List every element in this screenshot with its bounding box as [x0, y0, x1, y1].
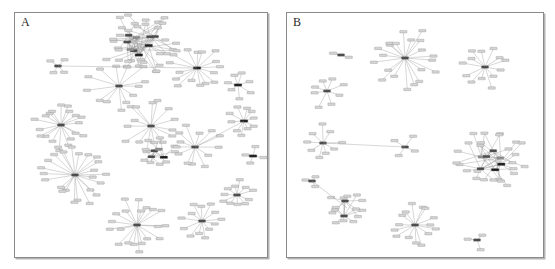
graph-node [103, 100, 110, 103]
graph-node [67, 138, 74, 141]
graph-node [478, 50, 485, 53]
graph-node [45, 159, 52, 162]
graph-node [118, 27, 125, 30]
graph-node [510, 167, 517, 170]
graph-edge [405, 58, 421, 70]
graph-node [220, 200, 227, 203]
graph-edge [62, 175, 75, 191]
graph-edge [63, 152, 75, 175]
graph-node [142, 23, 149, 26]
graph-node [122, 140, 129, 143]
graph-node [85, 154, 92, 157]
graph-node [247, 162, 254, 165]
graph-node [115, 243, 122, 246]
graph-node [399, 214, 406, 217]
graph-node [210, 71, 217, 74]
graph-node [309, 132, 316, 135]
graph-node [391, 139, 398, 142]
graph-node [83, 89, 90, 92]
graph-edge [323, 132, 330, 143]
graph-node [379, 54, 386, 57]
graph-node [497, 163, 505, 166]
graph-node [504, 184, 511, 187]
graph-edge [179, 133, 195, 147]
graph-node [169, 129, 176, 132]
graph-edge [405, 58, 407, 89]
graph-node [340, 219, 347, 222]
graph-edge [151, 126, 163, 142]
graph-node [205, 154, 212, 157]
graph-node [249, 155, 257, 158]
graph-node [227, 202, 234, 205]
graph-node [315, 106, 322, 109]
graph-edge [197, 52, 198, 68]
graph-edge [116, 214, 137, 225]
graph-node [202, 237, 209, 240]
graph-node [408, 202, 415, 205]
graph-node [341, 215, 348, 218]
graph-node [353, 194, 360, 197]
graph-node [477, 168, 484, 171]
graph-node [340, 83, 347, 86]
graph-node [208, 129, 215, 132]
graph-node [465, 142, 472, 145]
graph-node [47, 60, 54, 63]
graph-node [250, 117, 257, 120]
graph-node [490, 47, 497, 50]
graph-edge [61, 125, 71, 139]
graph-node [463, 169, 470, 172]
graph-node [497, 157, 504, 160]
panel-a-label: A [21, 15, 30, 30]
graph-edge [238, 85, 239, 99]
graph-edge [119, 67, 127, 86]
graph-node [375, 47, 382, 50]
graph-node [329, 212, 336, 215]
graph-layer [31, 14, 267, 253]
graph-edge [237, 107, 244, 121]
graph-node [66, 110, 73, 113]
graph-node [331, 148, 338, 151]
graph-edge [322, 124, 323, 143]
graph-node [169, 135, 176, 138]
graph-edge [405, 58, 414, 85]
graph-node [207, 203, 214, 206]
graph-node [116, 34, 123, 37]
graph-node [354, 215, 361, 218]
graph-node [125, 242, 132, 245]
graph-node [473, 177, 480, 180]
graph-edge [319, 91, 327, 107]
graph-node [224, 81, 231, 84]
graph-node [182, 124, 189, 127]
graph-edge [127, 42, 128, 61]
graph-node [224, 187, 231, 190]
graph-node [497, 69, 504, 72]
graph-node [391, 75, 398, 78]
graph-node [127, 48, 134, 51]
graph-node [478, 77, 485, 80]
graph-node [518, 142, 525, 145]
graph-node [154, 99, 161, 102]
graph-node [138, 242, 145, 245]
graph-node [163, 52, 170, 55]
panel-b: B [286, 12, 544, 258]
graph-node [145, 44, 153, 47]
graph-edge [495, 170, 507, 186]
graph-node [345, 56, 352, 59]
graph-node [416, 80, 423, 83]
graph-node [218, 218, 225, 221]
graph-node [419, 29, 426, 32]
graph-node [509, 161, 516, 164]
graph-node [113, 213, 120, 216]
graph-node [118, 109, 125, 112]
graph-node [176, 132, 183, 135]
graph-edge [201, 206, 202, 221]
graph-node [197, 84, 204, 87]
graph-node [480, 179, 487, 182]
graph-node [174, 85, 181, 88]
graph-node [477, 141, 484, 144]
graph-edge [119, 86, 121, 110]
graph-edge [405, 40, 420, 58]
graph-edge [403, 32, 405, 58]
graph-edge [75, 162, 98, 175]
graph-edge [74, 175, 75, 202]
